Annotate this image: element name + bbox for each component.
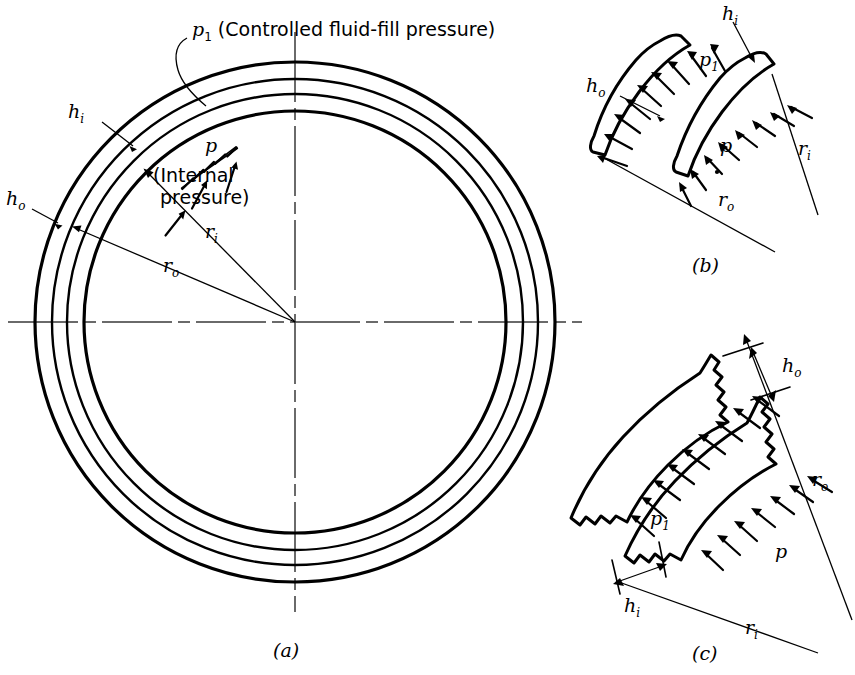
panel-b-hi-subscript: i [734, 14, 738, 28]
panel-c-p-label: p [775, 540, 787, 562]
panel-a-ho-subscript: o [18, 199, 25, 213]
panel-b-ho-arrowhead [657, 116, 665, 122]
panel-b-hi-symbol: h [722, 2, 734, 24]
panel-a-ho-symbol: h [6, 187, 18, 209]
panel-c-ri-label: ri [745, 616, 758, 642]
panel-a-p1-subscript: 1 [204, 30, 212, 44]
panel-c-p1-symbol: p [650, 507, 662, 529]
panel-a-p1-callout: p1 (Controlled fluid-fill pressure) [192, 18, 495, 44]
panel-c-group: p1 p ro ho h [571, 334, 852, 664]
panel-a-ro-label: ro [163, 254, 179, 280]
panel-c-hi-label: hi [624, 594, 640, 620]
panel-a-label: (a) [273, 639, 299, 661]
panel-a-ro-subscript: o [172, 266, 179, 280]
panel-b-ri-subscript: i [807, 149, 811, 163]
panel-b-ro-label: ro [718, 188, 734, 214]
panel-a-p1-caption: (Controlled fluid-fill pressure) [212, 18, 495, 40]
panel-c-ro-radius-line [746, 339, 852, 620]
panel-c-hi-subscript: i [636, 606, 640, 620]
panel-c-ho-subscript: o [794, 366, 801, 380]
panel-a-ri-subscript: i [214, 232, 218, 246]
panel-c-ho-dimension [723, 343, 790, 402]
panel-b-ho-subscript: o [598, 86, 605, 100]
panel-b-group: hi ho p1 p ri ro (b) [586, 2, 818, 276]
panel-a-p1-symbol: p [192, 18, 204, 40]
panel-a-hi-symbol: h [68, 100, 80, 122]
panel-c-label: (c) [692, 642, 717, 664]
panel-b-center-dot [715, 170, 719, 174]
panel-b-p-label: p [720, 134, 732, 156]
panel-a-p-note-line1: (Internal [153, 164, 234, 186]
panel-a-ho-arrowhead [55, 224, 63, 230]
panel-b-ho-label: ho [586, 74, 605, 100]
panel-b-ho-symbol: h [586, 74, 598, 96]
engineering-diagram-svg: p1 (Controlled fluid-fill pressure) [0, 0, 855, 675]
panel-a-hi-arrowhead [130, 146, 138, 152]
figure-root: p1 (Controlled fluid-fill pressure) [0, 0, 855, 675]
panel-a-ho-label: ho [6, 187, 25, 213]
panel-c-ho-label: ho [782, 354, 801, 380]
panel-a-hi-label: hi [68, 100, 84, 126]
panel-c-hi-symbol: h [624, 594, 636, 616]
panel-a-group: p1 (Controlled fluid-fill pressure) [6, 18, 582, 661]
panel-c-ri-subscript: i [754, 628, 758, 642]
panel-b-p1-symbol: p [699, 48, 711, 70]
panel-b-inner-segment [673, 53, 774, 176]
panel-b-hi-label: hi [722, 2, 738, 28]
panel-b-ro-subscript: o [727, 200, 734, 214]
panel-a-ri-label: ri [205, 220, 218, 246]
panel-b-ri-radius-line [772, 74, 818, 215]
panel-a-hi-subscript: i [80, 112, 84, 126]
p1-callout-leader [176, 38, 206, 106]
panel-b-label: (b) [692, 254, 719, 276]
panel-c-ho-symbol: h [782, 354, 794, 376]
panel-a-ho-leader [32, 209, 58, 223]
panel-c-ro-label: ro [812, 468, 828, 494]
panel-c-p1-subscript: 1 [662, 519, 670, 533]
panel-a-p-symbol: p [205, 134, 217, 156]
panel-c-ro-subscript: o [821, 480, 828, 494]
panel-a-p-note-line2: pressure) [160, 186, 249, 208]
panel-a-ro-arrowhead [72, 226, 82, 233]
panel-b-p1-subscript: 1 [711, 60, 719, 74]
panel-a-ro-radius-line [77, 229, 296, 323]
